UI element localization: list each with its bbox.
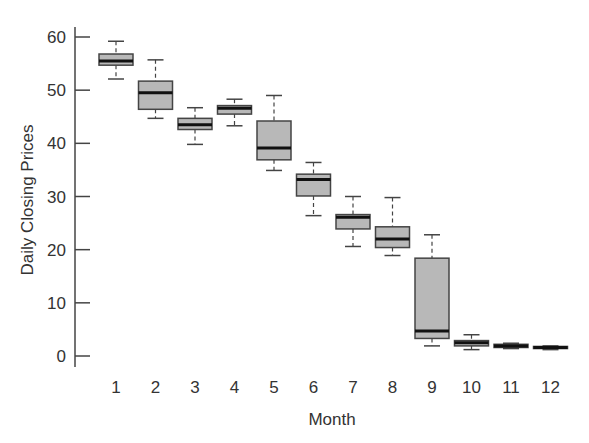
iqr-box [139, 81, 173, 109]
box-series [99, 41, 568, 349]
x-tick-label: 1 [111, 378, 120, 397]
y-tick-label: 40 [47, 134, 66, 153]
x-tick-label: 7 [348, 378, 357, 397]
x-tick-label: 3 [190, 378, 199, 397]
box-month-5 [257, 95, 291, 170]
box-month-10 [455, 335, 489, 350]
iqr-box [297, 174, 331, 196]
y-tick-label: 60 [47, 28, 66, 47]
y-tick-label: 30 [47, 188, 66, 207]
x-axis-title: Month [308, 410, 355, 429]
box-month-8 [376, 198, 410, 256]
box-month-11 [494, 343, 528, 348]
y-axis-title: Daily Closing Prices [18, 124, 37, 275]
x-tick-label: 12 [541, 378, 560, 397]
box-month-9 [415, 235, 449, 346]
y-tick-label: 50 [47, 81, 66, 100]
x-tick-label: 5 [269, 378, 278, 397]
box-month-6 [297, 162, 331, 215]
x-axis-labels: 123456789101112 [111, 378, 560, 397]
x-tick-label: 10 [462, 378, 481, 397]
iqr-box [415, 258, 449, 338]
box-month-1 [99, 41, 133, 79]
box-month-4 [218, 99, 252, 126]
x-tick-label: 9 [427, 378, 436, 397]
y-axis: 0102030405060 [47, 27, 90, 367]
y-tick-label: 10 [47, 294, 66, 313]
box-plot-chart: 0102030405060 123456789101112 Month Dail… [0, 0, 589, 443]
x-tick-label: 6 [309, 378, 318, 397]
iqr-box [257, 121, 291, 160]
box-month-3 [178, 108, 212, 145]
box-month-7 [336, 197, 370, 247]
y-tick-label: 20 [47, 241, 66, 260]
y-tick-label: 0 [57, 347, 66, 366]
box-month-12 [534, 346, 568, 350]
x-tick-label: 8 [388, 378, 397, 397]
x-tick-label: 11 [502, 378, 520, 397]
iqr-box [376, 227, 410, 248]
x-tick-label: 2 [151, 378, 160, 397]
box-month-2 [139, 60, 173, 118]
x-tick-label: 4 [230, 378, 239, 397]
